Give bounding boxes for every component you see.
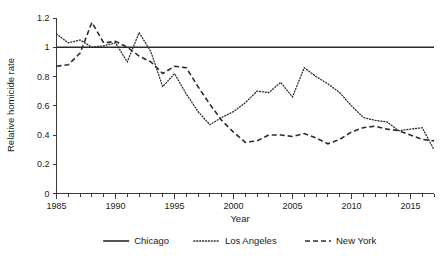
y-tick-label: 1 (44, 42, 49, 52)
x-tick-label: 2005 (282, 201, 302, 211)
y-tick-label: 0.2 (37, 159, 50, 169)
chart-figure: 00.20.40.60.811.2 1985199019952000200520… (0, 0, 448, 259)
x-axis-tick-labels: 1985199019952000200520102015 (46, 201, 420, 211)
line-chart: 00.20.40.60.811.2 1985199019952000200520… (0, 0, 448, 259)
y-tick-label: 0 (44, 189, 49, 199)
y-tick-label: 0.6 (37, 101, 50, 111)
y-tick-label: 0.8 (37, 72, 50, 82)
legend-item-los-angeles: Los Angeles (194, 235, 277, 246)
legend-label: New York (336, 235, 376, 246)
x-tick-label: 2010 (341, 201, 361, 211)
y-tick-label: 0.4 (37, 130, 50, 140)
y-axis-tick-labels: 00.20.40.60.811.2 (37, 13, 50, 199)
legend-item-chicago: Chicago (103, 235, 169, 246)
series-line-new-york (57, 22, 435, 143)
y-axis-ticks (53, 18, 57, 194)
x-tick-label: 2015 (400, 201, 420, 211)
x-axis-ticks (57, 194, 435, 199)
series-line-los-angeles (57, 33, 435, 150)
x-axis-group: 1985199019952000200520102015 (46, 194, 434, 211)
x-tick-label: 1995 (164, 201, 184, 211)
legend-item-new-york: New York (305, 235, 376, 246)
legend-label: Chicago (134, 235, 169, 246)
y-axis-group: 00.20.40.60.811.2 (37, 13, 57, 199)
x-tick-label: 1985 (46, 201, 66, 211)
x-tick-label: 1990 (105, 201, 125, 211)
legend-label: Los Angeles (225, 235, 277, 246)
x-axis-title: Year (230, 213, 249, 224)
x-tick-label: 2000 (223, 201, 243, 211)
chart-legend: ChicagoLos AngelesNew York (103, 235, 376, 246)
y-axis-title: Relative homicide rate (5, 58, 16, 152)
y-tick-label: 1.2 (37, 13, 50, 23)
series-group (57, 22, 435, 149)
